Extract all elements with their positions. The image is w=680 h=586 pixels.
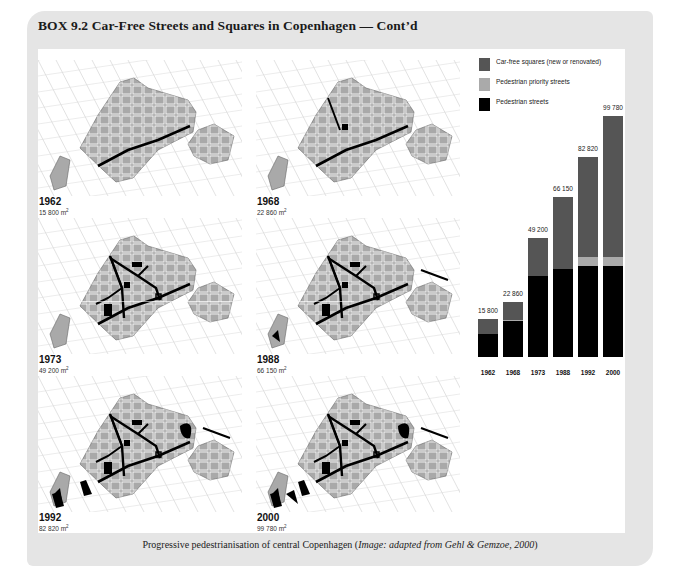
bar-total-label: 99 780 xyxy=(593,104,633,111)
map-graphic xyxy=(38,60,242,196)
caption-main: Progressive pedestrianisation of central… xyxy=(142,539,358,550)
map-graphic xyxy=(256,376,460,512)
scan-artifact-line xyxy=(38,301,354,302)
map-area: 66 150 m2 xyxy=(257,365,287,375)
map-area: 15 800 m2 xyxy=(39,207,69,217)
map-year: 1992 xyxy=(39,512,69,523)
map-label-2000: 200099 780 m2 xyxy=(257,512,287,533)
bar-segment xyxy=(528,238,548,276)
bar-segment xyxy=(603,266,623,357)
bar-category-label: 2000 xyxy=(598,369,628,376)
map-year: 1962 xyxy=(39,196,69,207)
map-year: 2000 xyxy=(257,512,287,523)
map-label-1988: 198866 150 m2 xyxy=(257,354,287,375)
figure-caption: Progressive pedestrianisation of central… xyxy=(0,539,680,550)
legend-swatch xyxy=(479,78,490,91)
bar-1962 xyxy=(478,0,498,1)
bar-segment xyxy=(603,116,623,258)
map-label-1962: 196215 800 m2 xyxy=(39,196,69,217)
bar-1973 xyxy=(528,0,548,1)
bar-2000 xyxy=(603,0,623,1)
bar-segment xyxy=(503,302,523,320)
bar-segment xyxy=(503,320,523,321)
map-1973 xyxy=(38,218,242,354)
map-graphic xyxy=(38,218,242,354)
map-year: 1968 xyxy=(257,196,287,207)
map-area: 99 780 m2 xyxy=(257,523,287,533)
map-1988 xyxy=(256,218,460,354)
map-year: 1988 xyxy=(257,354,287,365)
map-graphic xyxy=(256,60,460,196)
bar-segment xyxy=(553,269,573,357)
bar-1988 xyxy=(553,0,573,1)
box-title: BOX 9.2 Car-Free Streets and Squares in … xyxy=(38,18,418,34)
bar-segment xyxy=(528,276,548,357)
legend-label: Pedestrian priority streets xyxy=(496,78,570,85)
legend-swatch xyxy=(479,98,490,111)
map-1968 xyxy=(256,60,460,196)
legend-label: Pedestrian streets xyxy=(496,98,548,105)
bar-total-label: 49 200 xyxy=(518,226,558,233)
bar-1992 xyxy=(578,0,598,1)
bar-total-label: 66 150 xyxy=(543,185,583,192)
map-area: 22 860 m2 xyxy=(257,207,287,217)
map-2000 xyxy=(256,376,460,512)
map-year: 1973 xyxy=(39,354,69,365)
map-graphic xyxy=(256,218,460,354)
caption-close: ) xyxy=(534,539,537,550)
bar-total-label: 15 800 xyxy=(468,307,508,314)
map-graphic xyxy=(38,376,242,512)
map-1962 xyxy=(38,60,242,196)
bar-segment xyxy=(478,334,498,357)
bar-segment xyxy=(553,197,573,269)
bar-total-label: 22 860 xyxy=(493,290,533,297)
legend-item-car-free-squares: Car-free squares (new or renovated) xyxy=(479,58,649,72)
map-area: 82 820 m2 xyxy=(39,523,69,533)
bar-total-label: 82 820 xyxy=(568,145,608,152)
bar-segment xyxy=(578,266,598,357)
bar-segment xyxy=(578,257,598,266)
bar-1968 xyxy=(503,0,523,1)
bar-segment xyxy=(478,319,498,335)
map-label-1973: 197349 200 m2 xyxy=(39,354,69,375)
map-1992 xyxy=(38,376,242,512)
bar-segment xyxy=(503,321,523,357)
caption-credit: Image: adapted from Gehl & Gemzoe, 2000 xyxy=(358,539,534,550)
legend-label: Car-free squares (new or renovated) xyxy=(496,58,601,65)
bar-segment xyxy=(603,257,623,266)
legend-swatch xyxy=(479,58,490,71)
map-label-1992: 199282 820 m2 xyxy=(39,512,69,533)
bar-segment xyxy=(578,157,598,257)
map-area: 49 200 m2 xyxy=(39,365,69,375)
legend-item-pedestrian-priority: Pedestrian priority streets xyxy=(479,78,649,92)
map-label-1968: 196822 860 m2 xyxy=(257,196,287,217)
